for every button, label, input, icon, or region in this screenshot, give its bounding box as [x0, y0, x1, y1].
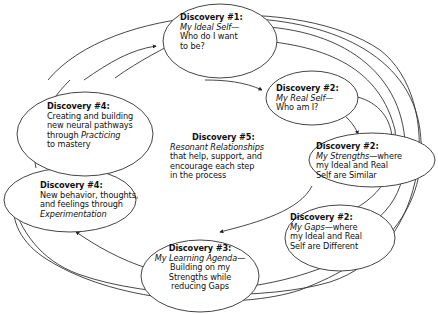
node-d3-line1: —	[237, 253, 245, 263]
edge-d1-to-d2b-outer	[252, 40, 396, 216]
node-d2c-line1: —where	[325, 222, 358, 232]
node-d3-line4: reducing Gaps	[142, 282, 258, 292]
node-d2b: Discovery #2: My Strengths—where my Idea…	[316, 142, 402, 180]
node-d5-line4: in the process	[170, 171, 264, 181]
node-d4b: Discovery #4: New behavior, thoughts, an…	[40, 181, 138, 219]
node-d4a-line4: to mastery	[47, 140, 133, 150]
node-d4a-line3-italic: Practicing	[81, 130, 120, 140]
node-d3-line1-italic: My Learning Agenda	[155, 253, 237, 263]
node-d4a: Discovery #4: Creating and building new …	[47, 102, 133, 150]
node-d3: Discovery #3: My Learning Agenda— Buildi…	[142, 244, 258, 292]
node-d2a: Discovery #2: My Real Self— Who am I?	[276, 84, 339, 113]
node-d4b-line3: Experimentation	[40, 210, 138, 220]
node-d1-line3: to be?	[180, 42, 243, 52]
node-d2c-line3: Self are Different	[290, 242, 362, 252]
node-d5: Discovery #5: Resonant Relationships tha…	[170, 133, 264, 181]
node-d2c: Discovery #2: My Gaps—where my Ideal and…	[290, 213, 362, 251]
edge-d2a-to-d2b-right	[353, 96, 392, 137]
edge-d1-to-d2a	[205, 80, 262, 90]
node-d2b-line3: Self are Similar	[316, 171, 402, 181]
node-d2b-line1: —where	[369, 151, 402, 161]
node-d4a-line3: through	[47, 130, 81, 140]
edge-d3-to-d4b	[76, 232, 150, 269]
node-d1: Discovery #1: My Ideal Self— Who do I wa…	[180, 13, 243, 51]
node-d2b-line1-italic: My Strengths	[316, 151, 369, 161]
node-d2c-line1-italic: My Gaps	[290, 222, 325, 232]
node-d2a-line2: Who am I?	[276, 103, 339, 113]
